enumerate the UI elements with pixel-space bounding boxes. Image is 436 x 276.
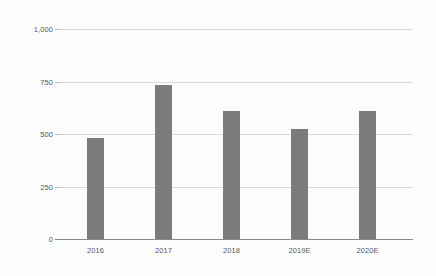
gridline-750 bbox=[62, 82, 413, 83]
x-tick-label-2018: 2018 bbox=[223, 246, 240, 255]
y-tick-label-1000: 1,000 bbox=[34, 25, 53, 34]
x-tick-label-2019e: 2019E bbox=[288, 246, 310, 255]
bar-2019e[interactable] bbox=[291, 129, 308, 239]
bar-2016[interactable] bbox=[87, 138, 104, 239]
tick-mark-0 bbox=[55, 239, 62, 240]
bar-2018[interactable] bbox=[223, 111, 240, 239]
y-tick-label-0: 0 bbox=[49, 235, 53, 244]
x-tick-label-2016: 2016 bbox=[87, 246, 104, 255]
gridline-1000 bbox=[62, 29, 413, 30]
x-tick-label-2020e: 2020E bbox=[356, 246, 378, 255]
x-axis-line bbox=[62, 239, 413, 240]
y-tick-label-250: 250 bbox=[40, 182, 53, 191]
bar-2017[interactable] bbox=[155, 85, 172, 239]
bar-2020e[interactable] bbox=[359, 111, 376, 239]
tick-mark-250 bbox=[55, 187, 62, 188]
plot-area: 1,000 750 500 250 0 bbox=[62, 29, 413, 239]
tick-mark-500 bbox=[55, 134, 62, 135]
y-tick-label-500: 500 bbox=[40, 130, 53, 139]
x-tick-label-2017: 2017 bbox=[155, 246, 172, 255]
tick-mark-1000 bbox=[55, 29, 62, 30]
tick-mark-750 bbox=[55, 82, 62, 83]
y-tick-label-750: 750 bbox=[40, 77, 53, 86]
bar-chart: 1,000 750 500 250 0 2016 201 bbox=[0, 0, 436, 276]
